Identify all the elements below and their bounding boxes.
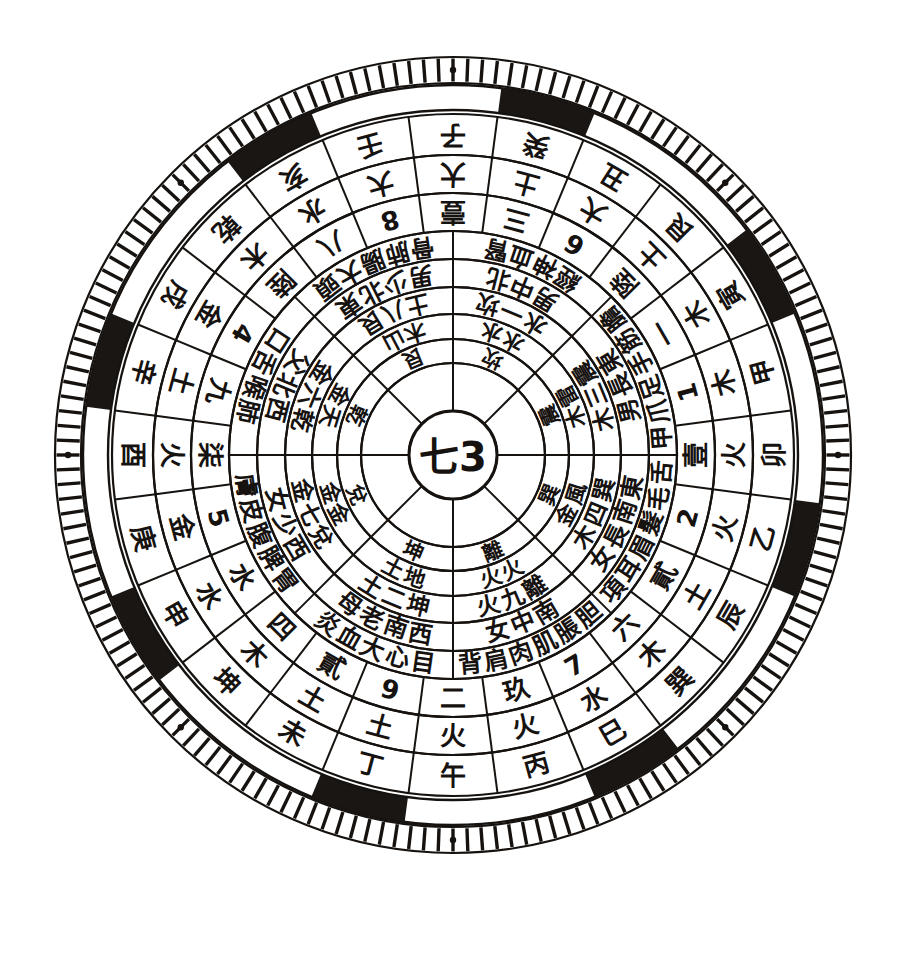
ring-label: 壹 <box>440 197 466 227</box>
ring-label: 骨 <box>409 232 437 263</box>
ring-label: 火 <box>440 721 466 751</box>
ring-label: 柒 <box>195 442 225 468</box>
ring-label: 甲 <box>647 424 677 450</box>
ring-label: 大 <box>440 159 466 189</box>
ring-label: 午 <box>440 761 466 791</box>
ring-label: 膚 <box>230 471 261 499</box>
ring-label: 西 <box>406 618 435 650</box>
ring-label: 男 <box>406 260 435 292</box>
ring-label: 子 <box>440 120 466 150</box>
center-label: 七3 <box>419 434 487 480</box>
ring-label: 背 <box>457 649 483 679</box>
ring-label: 火 <box>719 442 749 468</box>
ring-label: 東 <box>616 473 648 502</box>
ring-label: 壹 <box>681 442 711 468</box>
ring-label: 二 <box>440 683 466 713</box>
ring-label: 酉 <box>118 442 148 468</box>
ring-label: 火 <box>157 442 187 468</box>
ring-label: 目 <box>409 647 437 678</box>
luopan-diagram-canvas: 子癸丑艮寅甲卯乙辰巽巳丙午丁未坤申庚酉辛戌乾亥壬大土大土木木火火土木水火火土土木… <box>0 0 906 954</box>
luopan-svg: 子癸丑艮寅甲卯乙辰巽巳丙午丁未坤申庚酉辛戌乾亥壬大土大土木木火火土木水火火土土木… <box>0 0 906 954</box>
center-hub: 七3 <box>409 411 497 499</box>
ring-label: 卯 <box>759 442 789 468</box>
ring-label: 舌 <box>647 459 677 485</box>
